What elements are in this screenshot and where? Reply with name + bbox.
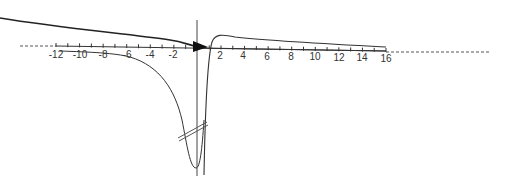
tick-label: -6 bbox=[123, 49, 132, 60]
tick-label: -2 bbox=[169, 49, 178, 60]
tick-label: 10 bbox=[309, 51, 321, 62]
tick-labels: -12 -10 -8 -6 -4 -2 2 4 6 8 10 12 14 16 bbox=[49, 49, 392, 64]
tick-label: 14 bbox=[356, 52, 368, 63]
lower-left-curve bbox=[60, 51, 204, 168]
tick-label: 8 bbox=[288, 51, 294, 62]
tick-label: 12 bbox=[333, 52, 345, 63]
tick-label: 2 bbox=[217, 50, 223, 61]
tick-label: 6 bbox=[264, 51, 270, 62]
tick-label: 16 bbox=[380, 53, 392, 64]
tick-label: -10 bbox=[73, 49, 88, 60]
arrow-head-icon bbox=[193, 41, 208, 52]
function-diagram: -12 -10 -8 -6 -4 -2 2 4 6 8 10 12 14 16 bbox=[0, 0, 506, 182]
tick-label: -4 bbox=[146, 49, 155, 60]
tick-label: -8 bbox=[99, 49, 108, 60]
tick-label: 4 bbox=[240, 50, 246, 61]
upper-left-curve bbox=[0, 18, 200, 47]
